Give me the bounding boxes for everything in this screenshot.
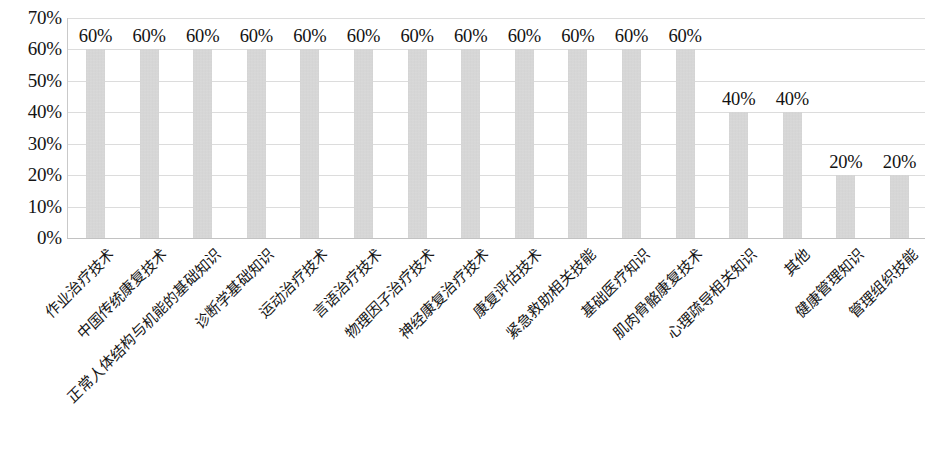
bar-value-label: 60% — [173, 27, 233, 46]
bar[interactable] — [783, 112, 802, 238]
bar[interactable] — [676, 49, 695, 238]
bar[interactable] — [515, 49, 534, 238]
x-axis-category-label[interactable]: 其他 — [781, 246, 814, 279]
bar-value-label: 60% — [226, 27, 286, 46]
bar[interactable] — [890, 175, 909, 238]
bar[interactable] — [836, 175, 855, 238]
bar-chart: 70%60%50%40%30%20%10%0% 60%60%60%60%60%6… — [0, 0, 933, 469]
bar[interactable] — [247, 49, 266, 238]
bar-value-label: 60% — [548, 27, 608, 46]
bar[interactable] — [140, 49, 159, 238]
y-axis-tick-label: 0% — [0, 228, 62, 247]
bar-value-label: 60% — [334, 27, 394, 46]
y-axis-tick-label: 50% — [0, 71, 62, 90]
bar-value-label: 60% — [441, 27, 501, 46]
bar-value-label: 60% — [280, 27, 340, 46]
y-axis-tick-label: 20% — [0, 165, 62, 184]
bar-value-label: 60% — [66, 27, 126, 46]
bar[interactable] — [408, 49, 427, 238]
bar-value-label: 40% — [762, 90, 822, 109]
x-axis-line — [67, 238, 925, 239]
bar-value-label: 40% — [709, 90, 769, 109]
bar[interactable] — [86, 49, 105, 238]
bar[interactable] — [729, 112, 748, 238]
y-axis-tick-label: 10% — [0, 197, 62, 216]
y-axis: 70%60%50%40%30%20%10%0% — [0, 0, 62, 250]
plot-area: 60%60%60%60%60%60%60%60%60%60%60%60%40%4… — [68, 18, 925, 238]
bar[interactable] — [193, 49, 212, 238]
bar-value-label: 20% — [816, 153, 876, 172]
gridline — [68, 18, 925, 19]
y-axis-tick-label: 60% — [0, 39, 62, 58]
bar-value-label: 60% — [387, 27, 447, 46]
bar[interactable] — [622, 49, 641, 238]
bar[interactable] — [461, 49, 480, 238]
bar[interactable] — [300, 49, 319, 238]
bar-value-label: 60% — [602, 27, 662, 46]
bar-value-label: 60% — [494, 27, 554, 46]
x-axis-category-label-text: 其他 — [782, 246, 814, 280]
y-axis-tick-label: 70% — [0, 8, 62, 27]
y-axis-tick-label: 40% — [0, 102, 62, 121]
bar[interactable] — [568, 49, 587, 238]
y-axis-tick-label: 30% — [0, 134, 62, 153]
bar-value-label: 20% — [870, 153, 930, 172]
bar-value-label: 60% — [655, 27, 715, 46]
bar[interactable] — [354, 49, 373, 238]
bar-value-label: 60% — [119, 27, 179, 46]
